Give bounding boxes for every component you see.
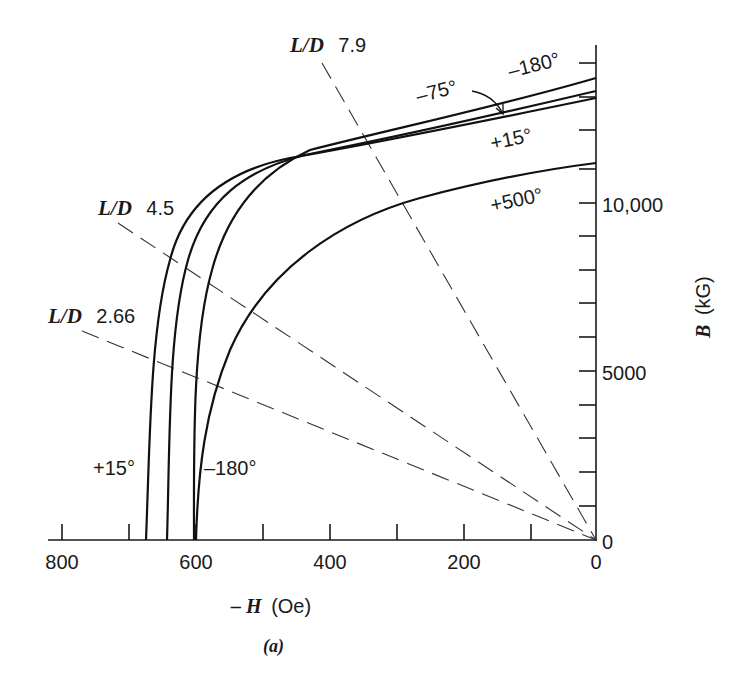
x-tick-labels: 800 600 400 200 0 xyxy=(45,551,601,573)
load-line-ld-7-9 xyxy=(322,63,596,540)
label-plus-15-top: +15° xyxy=(488,124,534,154)
figure-caption: (a) xyxy=(263,636,284,657)
svg-text:600: 600 xyxy=(179,551,212,573)
label-minus-180-lower: –180° xyxy=(204,457,257,479)
svg-text:0: 0 xyxy=(590,551,601,573)
label-plus-500: +500° xyxy=(488,183,544,216)
svg-text:10,000: 10,000 xyxy=(602,194,663,216)
svg-text:0: 0 xyxy=(602,531,613,553)
load-line-ld-4-5 xyxy=(118,223,596,540)
curve-plus-500 xyxy=(196,163,596,540)
svg-text:400: 400 xyxy=(313,551,346,573)
y-axis xyxy=(579,45,596,541)
x-axis xyxy=(48,524,597,540)
label-ld-4-5: L/D 4.5 xyxy=(97,196,174,220)
x-axis-title: – H (Oe) xyxy=(230,595,311,617)
label-minus-75: –75° xyxy=(414,76,459,107)
svg-text:200: 200 xyxy=(447,551,480,573)
label-ld-2-66: L/D 2.66 xyxy=(47,304,135,328)
svg-text:5000: 5000 xyxy=(602,362,647,384)
y-axis-title: B (kG) xyxy=(692,276,714,339)
label-plus-15-lower: +15° xyxy=(93,457,135,479)
label-ld-7-9: L/D 7.9 xyxy=(289,33,366,57)
svg-text:800: 800 xyxy=(45,551,78,573)
label-minus-180-top: –180° xyxy=(506,48,562,82)
load-line-ld-2-66 xyxy=(82,331,596,540)
y-tick-labels: 0 5000 10,000 xyxy=(602,194,663,553)
bh-demagnetization-chart: L/D 7.9 L/D 4.5 L/D 2.66 +15° –180° –75°… xyxy=(0,0,745,685)
